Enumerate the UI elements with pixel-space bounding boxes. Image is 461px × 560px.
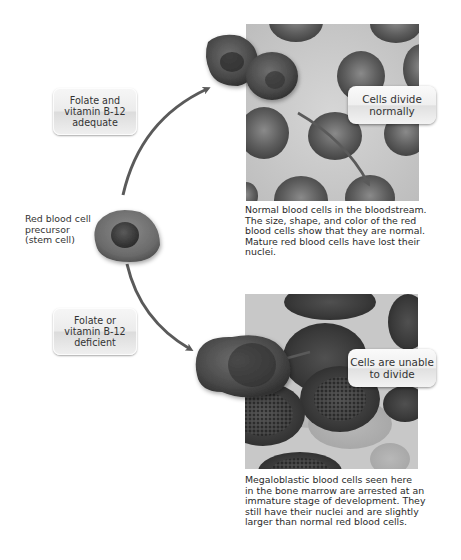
- callout-line: Cells divide: [362, 93, 422, 105]
- caption-line: Normal blood cells in the bloodstream.: [245, 205, 427, 216]
- megaloblastic-cells-caption: Megaloblastic blood cells seen here in t…: [245, 475, 425, 528]
- caption-line: nuclei.: [245, 247, 427, 258]
- callout-cells-unable-to-divide: Cells are unable to divide: [348, 349, 436, 387]
- condition-adequate-label: Folate and vitamin B-12 adequate: [53, 88, 137, 135]
- condition-line: vitamin B-12: [64, 326, 125, 337]
- callout-line: normally: [369, 105, 414, 117]
- megaloblastic-cell-image: [196, 335, 290, 397]
- condition-line: Folate or: [74, 315, 116, 326]
- caption-line: Megaloblastic blood cells seen here: [245, 475, 425, 486]
- callout-line: Cells are unable: [350, 356, 434, 368]
- callout-cells-divide: Cells divide normally: [348, 86, 436, 124]
- condition-deficient-label: Folate or vitamin B-12 deficient: [53, 308, 137, 355]
- stem-cell-image: [94, 210, 160, 262]
- normal-cells-caption: Normal blood cells in the bloodstream. T…: [245, 205, 427, 258]
- condition-line: Folate and: [70, 95, 120, 106]
- caption-line: larger than normal red blood cells.: [245, 517, 425, 528]
- condition-line: adequate: [72, 117, 118, 128]
- callout-line: to divide: [369, 368, 414, 380]
- stem-cell-label: Red blood cell precursor (stem cell): [25, 214, 91, 246]
- dividing-normal-cells-image: [206, 35, 298, 100]
- stem-cell-label-line: (stem cell): [25, 235, 91, 246]
- condition-line: deficient: [74, 337, 116, 348]
- condition-line: vitamin B-12: [64, 106, 125, 117]
- stem-cell-label-line: Red blood cell: [25, 214, 91, 225]
